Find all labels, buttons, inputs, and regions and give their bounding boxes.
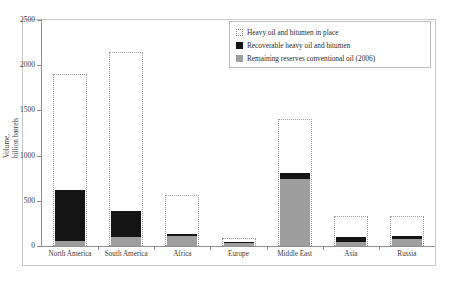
- bar-conventional-reserves: [167, 236, 197, 246]
- open-dotted-square-icon: [236, 29, 243, 36]
- x-axis-category-label: Europe: [228, 250, 249, 258]
- y-axis-tick: [37, 156, 42, 157]
- bar-recoverable-heavy-oil: [55, 190, 85, 246]
- y-axis-tick-label: 500: [24, 197, 35, 205]
- x-axis-category-label: Africa: [173, 250, 191, 258]
- bar-conventional-reserves: [111, 237, 141, 246]
- x-axis-category-label: South America: [105, 250, 148, 258]
- y-axis-tick: [37, 65, 42, 66]
- legend-label: Recoverable heavy oil and bitumen: [247, 42, 350, 50]
- y-axis-title-line2: billion barrels: [12, 88, 20, 158]
- bar-conventional-reserves: [224, 243, 254, 246]
- x-axis-category-label: Asia: [344, 250, 357, 258]
- bar-conventional-reserves: [336, 242, 366, 246]
- x-axis-line: [41, 246, 435, 247]
- y-axis-tick: [37, 246, 42, 247]
- bar-conventional-reserves: [55, 241, 85, 246]
- bar-conventional-reserves: [280, 179, 310, 246]
- legend-label: Heavy oil and bitumen in place: [247, 29, 338, 37]
- chart-legend: Heavy oil and bitumen in place Recoverab…: [229, 21, 431, 68]
- y-axis-title-line2-wrap: billion barrels: [12, 88, 20, 158]
- x-axis-category-label: North America: [49, 250, 92, 258]
- y-axis-tick-label: 1500: [20, 107, 35, 115]
- y-axis-tick: [37, 20, 42, 21]
- y-axis-tick-label: 0: [31, 242, 35, 250]
- x-axis-tick: [379, 246, 380, 250]
- black-square-icon: [236, 42, 243, 49]
- y-axis-title-line1: Volume,: [3, 88, 11, 158]
- legend-label: Remaining reserves conventional oil (200…: [247, 55, 375, 63]
- x-axis-tick: [154, 246, 155, 250]
- x-axis-tick: [323, 246, 324, 250]
- legend-item-recoverable: Recoverable heavy oil and bitumen: [236, 39, 424, 52]
- y-axis-tick-label: 2500: [20, 16, 35, 24]
- y-axis-tick: [37, 110, 42, 111]
- x-axis-tick: [210, 246, 211, 250]
- chart-figure: Volume, billion barrels 0500100015002000…: [0, 0, 457, 282]
- x-axis-tick: [98, 246, 99, 250]
- legend-item-in-place: Heavy oil and bitumen in place: [236, 26, 424, 39]
- x-axis-category-label: Russia: [397, 250, 416, 258]
- x-axis-category-label: Middle East: [277, 250, 312, 258]
- bar-group: [109, 20, 143, 246]
- gray-square-icon: [236, 55, 243, 62]
- y-axis-title: Volume,: [3, 88, 11, 158]
- y-axis-tick: [37, 201, 42, 202]
- y-axis-tick-label: 2000: [20, 61, 35, 69]
- bar-group: [53, 20, 87, 246]
- bar-conventional-reserves: [392, 239, 422, 246]
- legend-item-conventional: Remaining reserves conventional oil (200…: [236, 52, 424, 65]
- x-axis-tick: [267, 246, 268, 250]
- y-axis-tick-label: 1000: [20, 152, 35, 160]
- bar-group: [165, 20, 199, 246]
